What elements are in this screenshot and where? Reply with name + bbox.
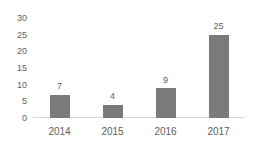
y-axis-tick-10: 10 (17, 80, 27, 89)
bar-value-label-2015: 4 (110, 92, 115, 101)
bar-value-label-2016: 9 (163, 76, 168, 85)
bar-series: 7 4 9 25 (33, 18, 245, 118)
y-axis-tick-15: 15 (17, 64, 27, 73)
bar-chart: 0 5 10 15 20 25 30 7 4 9 25 (0, 0, 253, 149)
x-axis-label-2014: 2014 (33, 126, 86, 138)
bar-slot-2014: 7 (33, 18, 86, 118)
bar-2017 (209, 35, 229, 118)
bar-value-label-2017: 25 (213, 22, 223, 31)
y-axis-tick-20: 20 (17, 47, 27, 56)
x-axis-label-2017: 2017 (192, 126, 245, 138)
y-axis-tick-25: 25 (17, 30, 27, 39)
y-axis-tick-5: 5 (22, 97, 27, 106)
bar-slot-2016: 9 (139, 18, 192, 118)
y-axis-tick-0: 0 (22, 114, 27, 123)
y-axis-tick-30: 30 (17, 14, 27, 23)
bar-value-label-2014: 7 (57, 82, 62, 91)
x-axis-label-2015: 2015 (86, 126, 139, 138)
plot-area: 0 5 10 15 20 25 30 7 4 9 25 (33, 18, 245, 118)
bar-2015 (103, 105, 123, 118)
bar-slot-2017: 25 (192, 18, 245, 118)
bar-slot-2015: 4 (86, 18, 139, 118)
bar-2016 (156, 88, 176, 118)
bar-2014 (50, 95, 70, 118)
x-axis-category-labels: 2014 2015 2016 2017 (33, 126, 245, 140)
x-axis-label-2016: 2016 (139, 126, 192, 138)
